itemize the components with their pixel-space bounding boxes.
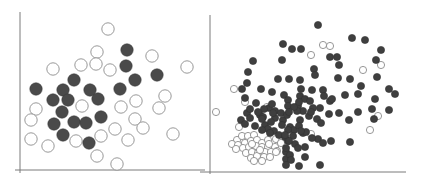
scatter-figure [0, 0, 431, 183]
filled-data-point [296, 76, 303, 83]
hollow-data-point [181, 61, 193, 73]
filled-data-point [254, 108, 261, 115]
filled-data-point [317, 119, 324, 126]
hollow-data-point [115, 101, 127, 113]
filled-data-point [252, 99, 259, 106]
filled-data-point [297, 127, 304, 134]
filled-data-point [334, 74, 341, 81]
filled-data-point [345, 116, 352, 123]
figure [0, 0, 431, 183]
hollow-data-point [146, 50, 158, 62]
hollow-data-point [137, 122, 149, 134]
filled-data-point [246, 114, 253, 121]
filled-data-point [370, 115, 377, 122]
hollow-data-point [47, 63, 59, 75]
filled-data-point [373, 73, 380, 80]
filled-data-point [92, 93, 104, 105]
filled-data-point [285, 75, 292, 82]
filled-data-point [48, 118, 60, 130]
hollow-data-point [230, 85, 237, 92]
filled-data-point [335, 61, 342, 68]
filled-data-point [325, 110, 332, 117]
hollow-data-point [75, 59, 87, 71]
filled-data-point [308, 86, 315, 93]
filled-data-point [266, 129, 273, 136]
filled-data-point [267, 118, 274, 125]
filled-data-point [129, 74, 141, 86]
filled-data-point [268, 88, 275, 95]
filled-data-point [279, 40, 286, 47]
filled-data-point [295, 162, 302, 169]
filled-data-point [333, 53, 340, 60]
hollow-data-point [248, 140, 255, 147]
filled-data-point [241, 94, 248, 101]
hollow-data-point [258, 157, 265, 164]
filled-data-point [56, 106, 68, 118]
filled-data-point [308, 134, 315, 141]
filled-data-point [30, 83, 42, 95]
hollow-data-point [91, 150, 103, 162]
filled-data-point [269, 109, 276, 116]
hollow-data-point [250, 157, 257, 164]
filled-data-point [295, 98, 302, 105]
filled-data-point [241, 120, 248, 127]
filled-data-point [258, 115, 265, 122]
filled-data-point [68, 116, 80, 128]
filled-data-point [95, 111, 107, 123]
filled-data-point [80, 117, 92, 129]
filled-data-point [314, 21, 321, 28]
filled-data-point [278, 56, 285, 63]
filled-data-point [151, 69, 163, 81]
filled-data-point [371, 95, 378, 102]
hollow-data-point [30, 103, 42, 115]
hollow-data-point [42, 140, 54, 152]
hollow-data-point [266, 153, 273, 160]
hollow-data-point [366, 126, 373, 133]
hollow-data-point [70, 135, 82, 147]
filled-data-point [282, 161, 289, 168]
filled-data-point [68, 74, 80, 86]
hollow-data-point [130, 95, 142, 107]
filled-data-point [385, 106, 392, 113]
filled-data-point [62, 94, 74, 106]
filled-data-point [372, 56, 379, 63]
filled-data-point [346, 138, 353, 145]
hollow-data-point [95, 130, 107, 142]
filled-data-point [281, 131, 288, 138]
filled-data-point [377, 46, 384, 53]
filled-data-point [361, 36, 368, 43]
hollow-data-point [232, 145, 239, 152]
left-scatter-chart [15, 12, 205, 173]
filled-data-point [121, 44, 133, 56]
filled-data-point [335, 109, 342, 116]
filled-data-point [368, 105, 375, 112]
hollow-data-point [25, 114, 37, 126]
hollow-data-point [25, 133, 37, 145]
left-points-group [25, 23, 193, 170]
filled-data-point [357, 82, 364, 89]
filled-data-point [316, 104, 323, 111]
filled-data-point [301, 153, 308, 160]
filled-data-point [238, 85, 245, 92]
filled-data-point [120, 60, 132, 72]
hollow-data-point [91, 46, 103, 58]
filled-data-point [385, 85, 392, 92]
hollow-data-point [326, 42, 333, 49]
filled-data-point [316, 161, 323, 168]
hollow-data-point [90, 58, 102, 70]
filled-data-point [346, 75, 353, 82]
filled-data-point [258, 126, 265, 133]
filled-data-point [294, 144, 301, 151]
filled-data-point [391, 90, 398, 97]
filled-data-point [278, 121, 285, 128]
filled-data-point [288, 45, 295, 52]
hollow-data-point [76, 100, 88, 112]
hollow-data-point [104, 64, 116, 76]
filled-data-point [301, 143, 308, 150]
filled-data-point [306, 97, 313, 104]
filled-data-point [244, 68, 251, 75]
filled-data-point [285, 108, 292, 115]
filled-data-point [297, 45, 304, 52]
filled-data-point [307, 108, 314, 115]
filled-data-point [319, 139, 326, 146]
